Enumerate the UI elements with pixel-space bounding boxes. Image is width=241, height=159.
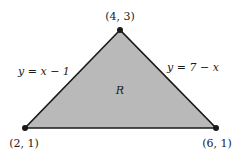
vertex-right-label: (6, 1)	[202, 137, 232, 150]
vertex-left-label: (2, 1)	[9, 137, 39, 150]
left-edge-equation: y = x − 1	[17, 65, 70, 78]
vertex-top-dot	[117, 27, 123, 33]
vertex-left-dot	[22, 125, 28, 131]
region-label: R	[115, 84, 124, 97]
region-triangle	[25, 30, 216, 128]
triangle-region-diagram: (4, 3) (2, 1) (6, 1) y = x − 1 y = 7 − x…	[0, 0, 241, 159]
right-edge-equation: y = 7 − x	[166, 61, 220, 74]
vertex-right-dot	[213, 125, 219, 131]
vertex-top-label: (4, 3)	[105, 10, 135, 23]
